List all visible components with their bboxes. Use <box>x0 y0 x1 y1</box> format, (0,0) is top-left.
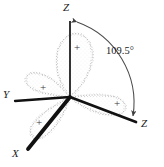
angle-value-label: 109.5° <box>106 46 134 57</box>
axis-label-x-lower-left: X <box>12 148 19 159</box>
diagram-canvas <box>0 0 164 167</box>
lobe-sign-z-up: + <box>74 42 80 53</box>
axis-label-y-left: Y <box>3 89 9 100</box>
axis-label-z-up: Z <box>63 2 69 13</box>
lobe-sign-x-lower-left: + <box>36 117 42 128</box>
orbital-diagram: Z Y X Z + + + + 109.5° <box>0 0 164 167</box>
axis-label-z-lower-right: Z <box>141 118 147 129</box>
lobe-sign-z-lower-right: + <box>114 98 120 109</box>
lobe-sign-y-left: + <box>40 82 46 93</box>
